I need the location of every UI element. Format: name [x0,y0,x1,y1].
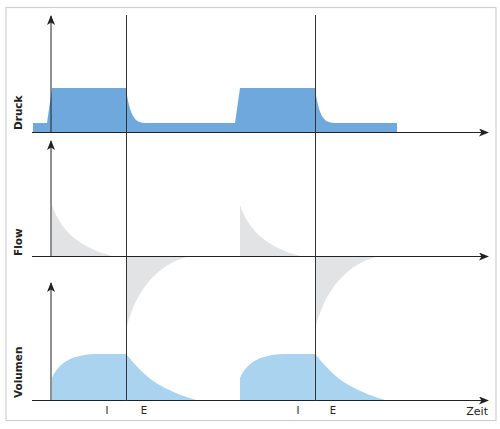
flow-inspiration-area-1 [52,205,112,256]
flow-inspiration-area-2 [240,205,300,256]
volumen-area-1 [52,354,196,400]
volumen-area-2 [240,354,385,400]
volumen-axis-label: Volumen [12,347,24,398]
druck-panel: Druck [12,16,488,133]
flow-expiration-area-2 [315,256,379,330]
flow-expiration-area-1 [126,256,190,330]
tick-inspiration-2: I [297,405,300,416]
tick-inspiration-1: I [106,405,109,416]
x-axis-label-zeit: Zeit [466,405,488,418]
druck-area [33,88,397,132]
druck-axis-label: Druck [12,94,24,130]
flow-panel: Flow [12,141,488,330]
tick-expiration-1: E [141,405,147,416]
volumen-panel: Volumen [12,283,488,401]
ventilation-curves-chart: Druck Flow Volumen I E I E Zeit [0,0,500,429]
flow-axis-label: Flow [12,228,24,256]
tick-expiration-2: E [330,405,336,416]
